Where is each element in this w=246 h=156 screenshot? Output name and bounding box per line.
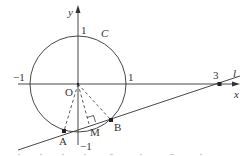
point-a xyxy=(62,129,66,133)
scan-residue xyxy=(18,154,202,155)
line-l xyxy=(18,76,240,150)
point-label-b: B xyxy=(114,121,121,133)
point-label-a: A xyxy=(59,135,67,147)
y-axis-arrow-icon xyxy=(76,5,81,13)
point-origin xyxy=(77,83,79,85)
point-label-m: M xyxy=(90,126,100,138)
x-axis-arrow-icon xyxy=(232,82,240,87)
tick-y-pos1: 1 xyxy=(81,24,87,36)
y-axis xyxy=(76,5,81,145)
tick-y-neg1: −1 xyxy=(80,140,92,152)
point-3-0 xyxy=(218,82,222,86)
diagram-canvas: y x O 1 −1 1 −1 3 C l A B M xyxy=(0,0,246,156)
y-axis-label: y xyxy=(67,6,73,18)
tick-x-3: 3 xyxy=(213,69,219,81)
tick-x-pos1: 1 xyxy=(128,71,134,83)
right-angle-marker xyxy=(87,116,96,123)
tick-x-neg1: −1 xyxy=(13,71,25,83)
origin-label: O xyxy=(65,86,73,98)
circle-label-c: C xyxy=(101,27,109,39)
x-axis-label: x xyxy=(233,88,239,100)
line-label-l: l xyxy=(233,67,236,79)
point-b xyxy=(109,118,113,122)
